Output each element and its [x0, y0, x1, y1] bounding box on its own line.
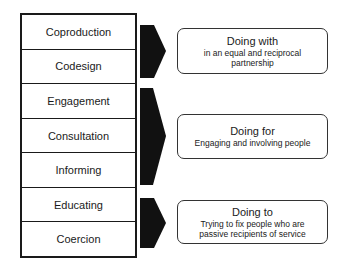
rung-label: Codesign	[55, 60, 101, 72]
rung-consultation: Consultation	[22, 119, 135, 154]
ladder-of-participation: Coproduction Codesign Engagement Consult…	[20, 13, 137, 258]
rung-label: Educating	[54, 199, 103, 211]
rung-coproduction: Coproduction	[22, 15, 135, 50]
rung-label: Consultation	[48, 130, 109, 142]
arrow-doing-with-icon	[140, 25, 166, 78]
group-description: Trying to fix people who are passive rec…	[178, 219, 327, 239]
arrow-doing-to-icon	[140, 198, 166, 248]
arrow-doing-for-icon	[140, 88, 166, 185]
rung-codesign: Codesign	[22, 50, 135, 85]
rung-label: Engagement	[47, 95, 109, 107]
group-doing-with: Doing with in an equal and reciprocal pa…	[177, 28, 328, 74]
rung-coercion: Coercion	[22, 222, 135, 256]
group-doing-for: Doing for Engaging and involving people	[177, 114, 328, 159]
group-description: Engaging and involving people	[189, 138, 317, 148]
rung-engagement: Engagement	[22, 84, 135, 119]
rung-label: Informing	[56, 164, 102, 176]
group-description: in an equal and reciprocal partnership	[178, 48, 327, 68]
rung-informing: Informing	[22, 153, 135, 188]
rung-educating: Educating	[22, 188, 135, 223]
group-title: Doing for	[230, 125, 275, 138]
group-title: Doing with	[227, 35, 278, 48]
rung-label: Coproduction	[46, 26, 111, 38]
group-title: Doing to	[232, 206, 273, 219]
rung-label: Coercion	[56, 233, 100, 245]
group-doing-to: Doing to Trying to fix people who are pa…	[177, 200, 328, 244]
